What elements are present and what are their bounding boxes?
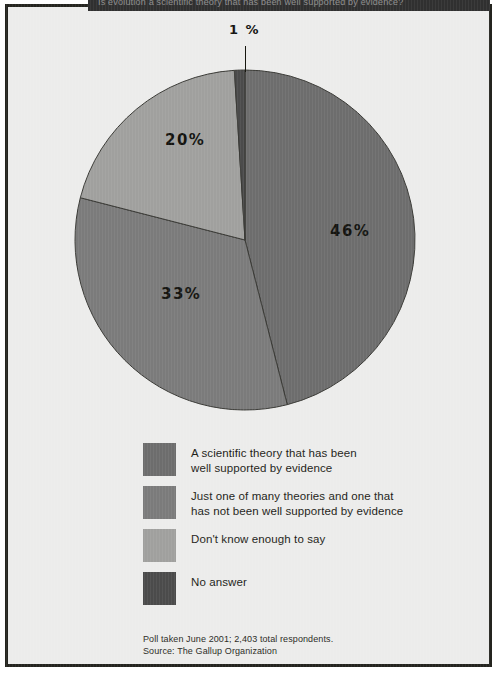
legend-swatch-not-supported: [143, 486, 176, 519]
legend-label-line2: has not been well supported by evidence: [191, 505, 403, 517]
legend-label-line1: Don't know enough to say: [191, 533, 325, 545]
legend-label-line1: Just one of many theories and one that: [191, 490, 394, 502]
legend-item: No answer: [143, 572, 443, 606]
legend-swatch-supported: [143, 443, 176, 476]
legend-swatch-dont-know: [143, 529, 176, 562]
legend-label-line2: well supported by evidence: [191, 462, 332, 474]
legend-label-supported: A scientific theory that has been well s…: [191, 443, 357, 475]
legend-label-no-answer: No answer: [191, 572, 247, 590]
pie-label-no-answer: 1 %: [229, 22, 260, 37]
legend-label-line1: No answer: [191, 576, 247, 588]
header-caption-text: Is evolution a scientific theory that ha…: [98, 0, 403, 8]
figure-root: Is evolution a scientific theory that ha…: [0, 0, 503, 684]
header-caption-band: Is evolution a scientific theory that ha…: [88, 0, 490, 11]
legend-item: Just one of many theories and one that h…: [143, 486, 443, 520]
footnote-line-source: Source: The Gallup Organization: [143, 646, 333, 658]
pie-slice-group: [75, 70, 415, 410]
legend-label-dont-know: Don't know enough to say: [191, 529, 325, 547]
legend-item: Don't know enough to say: [143, 529, 443, 563]
pie-chart-svg: [74, 69, 417, 412]
legend-swatch-no-answer: [143, 572, 176, 605]
pie-chart: [74, 69, 417, 412]
footnote: Poll taken June 2001; 2,403 total respon…: [143, 634, 333, 657]
legend-item: A scientific theory that has been well s…: [143, 443, 443, 477]
legend-label-line1: A scientific theory that has been: [191, 447, 357, 459]
callout-leader-line: [245, 46, 246, 72]
pie-label-dont-know: 20%: [165, 131, 205, 149]
footnote-line-poll: Poll taken June 2001; 2,403 total respon…: [143, 634, 333, 646]
legend-label-not-supported: Just one of many theories and one that h…: [191, 486, 403, 518]
pie-label-supported: 46%: [330, 222, 370, 240]
pie-label-not-supported: 33%: [161, 285, 201, 303]
legend: A scientific theory that has been well s…: [143, 443, 443, 615]
